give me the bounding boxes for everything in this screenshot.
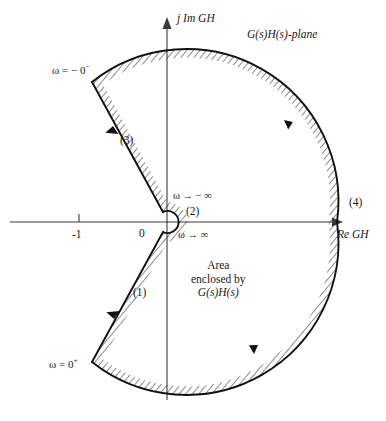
omega-positive-zero-label: ω = 0+ (49, 358, 78, 371)
imaginary-axis-arrowhead (163, 17, 172, 29)
omega-negative-zero-text: ω = − 0 (52, 64, 85, 76)
real-axis-tick-label: -1 (72, 228, 82, 241)
omega-positive-zero-superscript: + (73, 356, 77, 365)
plane-label: G(s)H(s)-plane (247, 28, 317, 41)
omega-to-positive-infinity-text: ω → ∞ (178, 229, 208, 240)
contour-branch-1-line (92, 232, 163, 362)
imaginary-axis-label: j Im GH (177, 12, 215, 25)
branch-4-label-text: (4) (349, 196, 362, 208)
origin-label: 0 (139, 227, 145, 240)
branch-1-label-text: (1) (133, 286, 146, 298)
omega-to-negative-infinity-label: ω → − ∞ (173, 190, 212, 202)
omega-to-negative-infinity-text: ω → − ∞ (173, 190, 212, 201)
enclosed-area-note-line-2: enclosed by (191, 273, 246, 287)
enclosed-area-note-line-3: G(s)H(s) (191, 286, 246, 300)
branch-3-label-text: (3) (120, 134, 133, 146)
branch-2-label: (2) (186, 205, 199, 218)
omega-negative-zero-superscript: − (85, 62, 89, 71)
origin-label-text: 0 (139, 227, 145, 239)
enclosed-area-note-line-1: Area (191, 259, 246, 273)
omega-negative-zero-label: ω = − 0− (52, 64, 90, 77)
branch-1-label: (1) (133, 286, 146, 299)
arrowhead-branch-4-upper (283, 120, 293, 130)
enclosed-area-note: Area enclosed by G(s)H(s) (191, 259, 246, 300)
branch-3-label: (3) (120, 134, 133, 147)
real-axis-label: Re GH (337, 228, 369, 241)
real-axis-tick-label-text: -1 (72, 228, 82, 240)
branch-4-label: (4) (349, 196, 362, 209)
arrowhead-branch-4-lower (249, 344, 259, 355)
omega-positive-zero-text: ω = 0 (49, 358, 73, 370)
plane-label-text: G(s)H(s)-plane (247, 28, 317, 40)
real-axis-label-text: Re GH (337, 228, 369, 240)
omega-to-positive-infinity-label: ω → ∞ (178, 229, 208, 241)
imaginary-axis-label-text: j Im GH (177, 12, 215, 24)
branch-2-label-text: (2) (186, 205, 199, 217)
nyquist-figure: G(s)H(s)-plane j Im GH Re GH -1 0 ω = − … (0, 0, 386, 421)
